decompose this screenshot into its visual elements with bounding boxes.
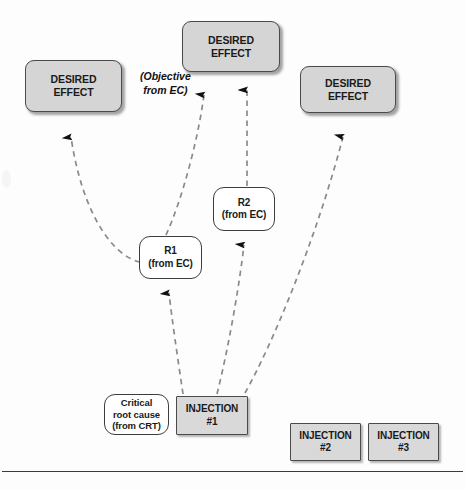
- edge-inj1-to-r1: [169, 293, 183, 394]
- node-label-line1: DESIRED: [51, 73, 97, 85]
- node-label-line2: #1: [207, 416, 218, 427]
- node-injection-2[interactable]: INJECTION #2: [290, 423, 361, 461]
- node-label-line2: #3: [398, 442, 409, 453]
- node-label-line2: root cause: [113, 409, 160, 420]
- edge-r1-to-de-top: [166, 95, 204, 235]
- edge-inj1-to-r2: [217, 245, 244, 394]
- node-label-line1: Critical: [121, 397, 152, 408]
- node-injection-3[interactable]: INJECTION #3: [368, 423, 439, 461]
- scan-artifact: [2, 170, 11, 188]
- node-label-line2: (from EC): [148, 258, 193, 269]
- node-label-line2: EFFECT: [211, 47, 251, 59]
- node-critical-root-cause[interactable]: Critical root cause (from CRT): [104, 394, 169, 435]
- node-desired-effect-right[interactable]: DESIRED EFFECT: [300, 66, 396, 113]
- edge-r1-to-de-left: [71, 137, 140, 262]
- node-injection-1[interactable]: INJECTION #1: [176, 396, 248, 435]
- annotation-objective-from-ec: (Objective from EC): [140, 70, 191, 97]
- edge-inj1-to-de-right: [245, 137, 343, 393]
- node-r1[interactable]: R1 (from EC): [139, 236, 202, 279]
- node-label-line2: EFFECT: [53, 86, 93, 98]
- annotation-line1: (Objective: [140, 70, 191, 82]
- node-r2[interactable]: R2 (from EC): [213, 187, 275, 231]
- node-label-line2: #2: [320, 442, 331, 453]
- annotation-line2: from EC): [143, 84, 187, 96]
- diagram-canvas: DESIRED EFFECT DESIRED EFFECT DESIRED EF…: [0, 0, 465, 490]
- node-label-line3: (from CRT): [112, 420, 161, 431]
- node-desired-effect-top[interactable]: DESIRED EFFECT: [182, 21, 280, 72]
- node-label-line2: EFFECT: [328, 90, 368, 102]
- node-desired-effect-left[interactable]: DESIRED EFFECT: [25, 60, 122, 112]
- node-label-line1: R2: [238, 197, 251, 208]
- node-label-line1: DESIRED: [208, 34, 254, 46]
- node-label-line1: INJECTION: [377, 430, 429, 441]
- node-label-line2: (from EC): [222, 209, 267, 220]
- node-label-line1: R1: [164, 245, 177, 256]
- node-label-line1: INJECTION: [186, 403, 238, 414]
- node-label-line1: DESIRED: [325, 77, 371, 89]
- node-label-line1: INJECTION: [299, 430, 351, 441]
- footer-divider: [2, 471, 463, 472]
